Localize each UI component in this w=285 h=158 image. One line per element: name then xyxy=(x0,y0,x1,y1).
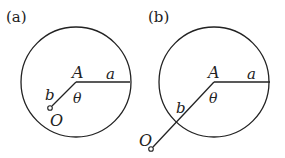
point-label-b: O xyxy=(139,131,152,150)
angle-label-b: θ xyxy=(209,90,218,106)
radius-label-a: a xyxy=(106,65,115,83)
figure-b: (b) A a b θ O xyxy=(139,8,270,151)
center-label-a: A xyxy=(70,63,84,82)
point-O-marker-a xyxy=(48,106,53,111)
radius-label-b: a xyxy=(247,65,256,83)
panel-label-a: (a) xyxy=(6,8,27,26)
offset-label-a: b xyxy=(45,86,55,104)
diagram-canvas: (a) A a b θ O (b) A a b θ O xyxy=(0,0,285,158)
center-label-b: A xyxy=(206,63,220,82)
panel-label-b: (b) xyxy=(148,8,169,26)
offset-label-b: b xyxy=(176,99,186,117)
point-label-a: O xyxy=(50,111,63,130)
angle-label-a: θ xyxy=(73,90,82,106)
figure-a: (a) A a b θ O xyxy=(6,8,131,137)
